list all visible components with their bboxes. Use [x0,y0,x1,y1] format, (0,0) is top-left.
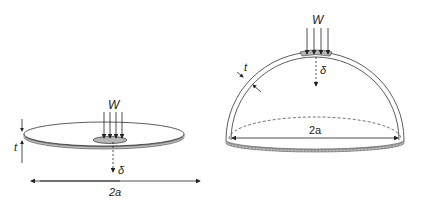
deflection-label: δ [118,164,125,176]
contact-patch-icon [300,50,332,56]
dome-figure: W δ t 2a [226,13,404,152]
deflection-label: δ [320,64,327,76]
dome-base-band [226,140,404,152]
diagram-canvas: W δ t 2a W [0,0,422,205]
flat-disc-figure: W δ t 2a [14,98,200,198]
load-label: W [108,98,121,112]
span-label: 2a [108,186,121,198]
load-label: W [312,13,325,27]
thickness-label: t [14,141,18,153]
span-label: 2a [309,124,322,136]
thickness-label: t [244,61,248,73]
